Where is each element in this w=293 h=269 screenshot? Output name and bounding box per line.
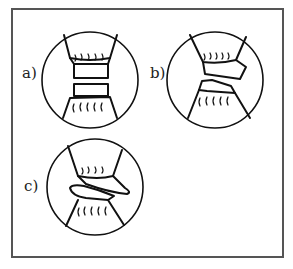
diagram-drawing	[0, 0, 293, 269]
panel-c-illustration	[47, 139, 143, 235]
panel-a-illustration	[42, 32, 138, 128]
panel-b-illustration	[167, 32, 263, 128]
